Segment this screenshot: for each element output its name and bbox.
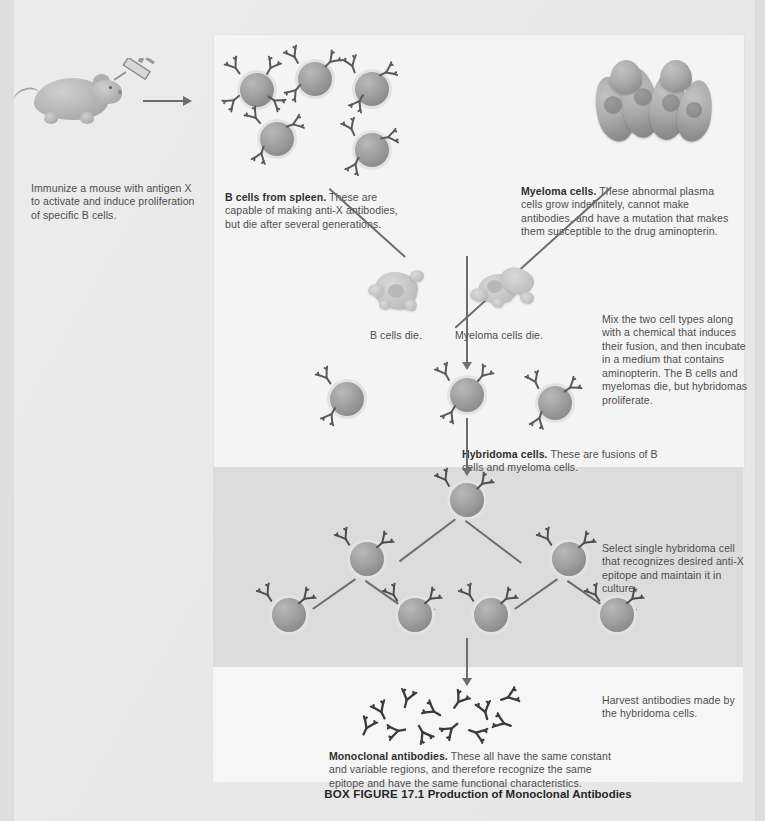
mix-instruction-text: Mix the two cell types along with a chem…	[602, 313, 748, 408]
harvest-text: Harvest antibodies made by the hybridoma…	[602, 694, 752, 721]
page-edge-left	[0, 0, 14, 821]
figure-caption-label: BOX FIGURE 17.1	[324, 788, 424, 800]
figure-canvas: Immunize a mouse with antigen X to activ…	[0, 0, 765, 821]
b-cells-caption: B cells from spleen. These are capable o…	[225, 191, 413, 232]
page-edge-right	[755, 0, 765, 821]
hybridoma-caption: Hybridoma cells. These are fusions of B …	[462, 448, 674, 475]
figure-caption-title: Production of Monoclonal Antibodies	[428, 788, 632, 800]
immunize-text: Immunize a mouse with antigen X to activ…	[31, 182, 195, 223]
myeloma-cells-die-text: Myeloma cells die.	[446, 329, 552, 343]
figure-caption: BOX FIGURE 17.1 Production of Monoclonal…	[213, 788, 743, 800]
monoclonal-caption-bold: Monoclonal antibodies.	[329, 750, 448, 762]
b-cells-die-text: B cells die.	[350, 329, 442, 343]
select-instruction-text: Select single hybridoma cell that recogn…	[602, 542, 748, 596]
syringe-icon	[108, 58, 160, 88]
monoclonal-caption: Monoclonal antibodies. These all have th…	[329, 750, 629, 791]
myeloma-caption-bold: Myeloma cells.	[521, 185, 597, 197]
b-cells-caption-bold: B cells from spleen.	[225, 191, 326, 203]
myeloma-caption: Myeloma cells. These abnormal plasma cel…	[521, 185, 729, 239]
hybridoma-caption-bold: Hybridoma cells.	[462, 448, 548, 460]
